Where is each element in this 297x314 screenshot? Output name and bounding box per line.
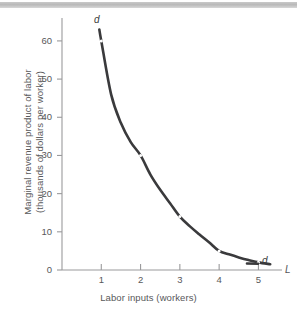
data-point-marker [218, 249, 221, 252]
x-tick-label: 5 [250, 274, 266, 285]
data-point-markers [100, 39, 260, 263]
curve-label-top-d: d [94, 14, 100, 25]
y-tick-label: 0 [26, 264, 52, 275]
x-tick-label: 1 [93, 274, 109, 285]
y-axis-title-line2: (thousands of dollars per worker) [34, 22, 46, 262]
y-axis-title: Marginal revenue product of labor (thous… [22, 22, 46, 262]
x-tick-label: 4 [211, 274, 227, 285]
demand-curve-d [99, 29, 270, 264]
data-point-marker [139, 154, 142, 157]
data-point-marker [100, 39, 103, 42]
x-axis-title: Labor inputs (workers) [0, 292, 297, 303]
y-tick-marks [57, 41, 62, 270]
y-axis-title-line1: Marginal revenue product of labor [22, 22, 34, 262]
x-tick-label: 2 [133, 274, 149, 285]
curve-label-bottom-d: d [262, 255, 268, 266]
x-tick-marks [101, 264, 258, 270]
x-tick-label: 3 [172, 274, 188, 285]
x-axis-variable-letter: L [285, 264, 291, 275]
data-point-marker [178, 215, 181, 218]
figure-container: 0102030405060 12345 Marginal revenue pro… [0, 0, 297, 314]
